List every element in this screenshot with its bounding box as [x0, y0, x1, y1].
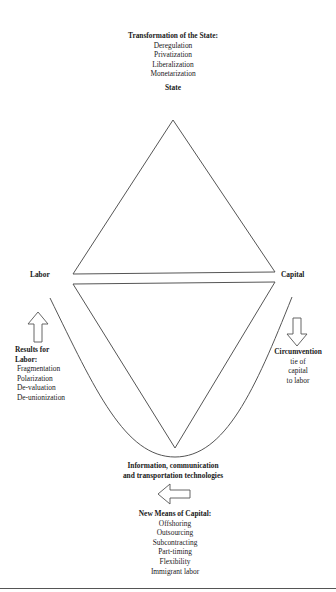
u-curve [50, 297, 292, 457]
state-transformation-block: Transformation of the State: Deregulatio… [98, 31, 248, 79]
state-triangle [73, 120, 275, 274]
state-label: State [148, 83, 198, 93]
labor-results-title-2: Labor: [15, 355, 65, 365]
capital-means-item: Part-timing [100, 547, 250, 557]
state-item: Liberalization [98, 60, 248, 70]
capital-means-block: New Means of Capital: Offshoring Outsour… [100, 509, 250, 576]
labor-result-item: Fragmentation [15, 364, 65, 374]
labor-label: Labor [30, 270, 50, 280]
state-transformation-title: Transformation of the State: [98, 31, 248, 41]
technology-triangle [73, 282, 275, 448]
technologies-line-1: Information, communication [88, 461, 258, 471]
circumvention-line: capital [268, 366, 328, 376]
capital-means-item: Outsourcing [100, 528, 250, 538]
left-arrow-icon [158, 484, 190, 504]
up-arrow-icon [28, 312, 48, 342]
labor-result-item: De-unionization [15, 393, 65, 403]
down-arrow-icon [287, 318, 307, 346]
capital-means-title: New Means of Capital: [100, 509, 250, 519]
state-item: Deregulation [98, 41, 248, 51]
state-item: Monetarization [98, 69, 248, 79]
labor-results-block: Results for Labor: Fragmentation Polariz… [15, 345, 65, 403]
state-item: Privatization [98, 50, 248, 60]
circumvention-line: to labor [268, 376, 328, 386]
capital-means-item: Subcontracting [100, 538, 250, 548]
technologies-label: Information, communication and transport… [88, 461, 258, 480]
circumvention-block: Circumvention tie of capital to labor [268, 347, 328, 385]
circumvention-line: tie of [268, 357, 328, 367]
capital-label: Capital [281, 270, 304, 280]
capital-means-item: Flexibility [100, 557, 250, 567]
labor-result-item: Polarization [15, 374, 65, 384]
labor-results-title-1: Results for [15, 345, 65, 355]
bottom-divider [0, 588, 336, 589]
circumvention-title: Circumvention [268, 347, 328, 357]
labor-result-item: De-valuation [15, 383, 65, 393]
capital-means-item: Offshoring [100, 519, 250, 529]
technologies-line-2: and transportation technologies [88, 471, 258, 481]
capital-means-item: Immigrant labor [100, 567, 250, 577]
